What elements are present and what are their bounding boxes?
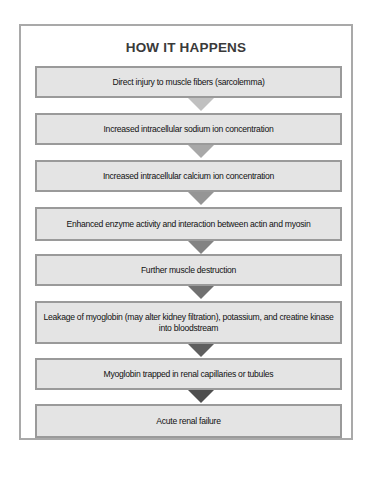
- step-box-8: Acute renal failure: [35, 404, 342, 438]
- flowchart-frame: HOW IT HAPPENS Direct injury to muscle f…: [19, 24, 353, 440]
- step-box-4: Enhanced enzyme activity and interaction…: [35, 207, 342, 241]
- down-arrow-icon: [188, 286, 214, 299]
- step-box-3: Increased intracellular calcium ion conc…: [35, 160, 342, 192]
- step-box-1: Direct injury to muscle fibers (sarcolem…: [35, 66, 342, 98]
- down-arrow-icon: [188, 344, 214, 357]
- step-box-7: Myoglobin trapped in renal capillaries o…: [35, 358, 342, 390]
- step-box-6: Leakage of myoglobin (may alter kidney f…: [35, 301, 342, 344]
- step-box-2: Increased intracellular sodium ion conce…: [35, 113, 342, 145]
- down-arrow-icon: [188, 192, 214, 205]
- down-arrow-icon: [188, 390, 214, 403]
- down-arrow-icon: [188, 98, 214, 111]
- step-box-5: Further muscle destruction: [35, 254, 342, 286]
- flowchart-title: HOW IT HAPPENS: [21, 40, 351, 55]
- down-arrow-icon: [188, 145, 214, 158]
- down-arrow-icon: [188, 241, 214, 254]
